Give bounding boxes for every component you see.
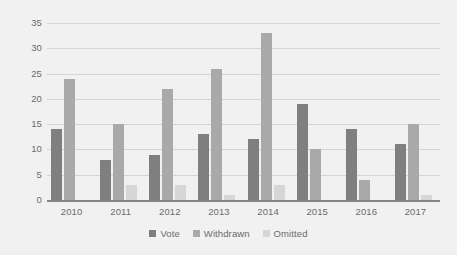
bar-withdrawn-2016	[359, 180, 370, 200]
y-axis-tick-label: 20	[4, 94, 42, 104]
bar-group	[47, 0, 96, 201]
bar-group	[194, 0, 243, 201]
bar-chart: 05101520253035 2010201120122013201420152…	[0, 0, 457, 255]
bar-vote-2015	[297, 104, 308, 200]
bar-withdrawn-2011	[113, 124, 124, 200]
bar-withdrawn-2017	[408, 124, 419, 200]
bar-group	[96, 0, 145, 201]
bar-omitted-2014	[274, 185, 285, 200]
x-axis-tick-label: 2012	[145, 206, 194, 217]
x-axis-tick-label: 2010	[47, 206, 96, 217]
x-axis-tick-label: 2013	[194, 206, 243, 217]
y-axis-tick-label: 10	[4, 144, 42, 154]
legend-swatch-icon	[149, 230, 156, 237]
bar-omitted-2013	[224, 195, 235, 200]
bar-vote-2011	[100, 160, 111, 200]
bar-withdrawn-2015	[310, 149, 321, 200]
x-axis-tick-label: 2014	[244, 206, 293, 217]
bar-vote-2012	[149, 155, 160, 201]
bar-group	[145, 0, 194, 201]
y-axis-tick-label: 5	[4, 170, 42, 180]
y-axis: 05101520253035	[0, 0, 42, 255]
bar-group	[391, 0, 440, 201]
bar-vote-2014	[248, 139, 259, 200]
y-axis-tick-label: 30	[4, 43, 42, 53]
bar-withdrawn-2012	[162, 89, 173, 200]
bar-vote-2010	[51, 129, 62, 200]
y-axis-tick-label: 15	[4, 119, 42, 129]
x-axis: 20102011201220132014201520162017	[47, 203, 440, 221]
legend-item-vote[interactable]: Vote	[149, 228, 179, 239]
y-axis-tick-label: 0	[4, 195, 42, 205]
x-axis-tick-label: 2015	[293, 206, 342, 217]
bar-withdrawn-2013	[211, 69, 222, 200]
bar-group	[342, 0, 391, 201]
legend-item-withdrawn[interactable]: Withdrawn	[193, 228, 250, 239]
legend-swatch-icon	[263, 230, 270, 237]
legend-swatch-icon	[193, 230, 200, 237]
legend-label: Vote	[160, 228, 179, 239]
bars-layer	[47, 0, 440, 201]
bar-group	[244, 0, 293, 201]
legend-item-omitted[interactable]: Omitted	[263, 228, 308, 239]
bar-vote-2013	[198, 134, 209, 200]
chart-legend: VoteWithdrawnOmitted	[0, 228, 457, 239]
x-axis-tick-label: 2011	[96, 206, 145, 217]
bar-withdrawn-2014	[261, 33, 272, 200]
bar-withdrawn-2010	[64, 79, 75, 200]
legend-label: Withdrawn	[204, 228, 250, 239]
x-axis-tick-label: 2017	[391, 206, 440, 217]
y-axis-tick-label: 25	[4, 69, 42, 79]
bar-group	[293, 0, 342, 201]
legend-label: Omitted	[274, 228, 308, 239]
y-axis-tick-label: 35	[4, 18, 42, 28]
bar-omitted-2012	[175, 185, 186, 200]
bar-omitted-2011	[126, 185, 137, 200]
bar-omitted-2017	[421, 195, 432, 200]
bar-vote-2016	[346, 129, 357, 200]
bar-vote-2017	[395, 144, 406, 200]
x-axis-tick-label: 2016	[342, 206, 391, 217]
